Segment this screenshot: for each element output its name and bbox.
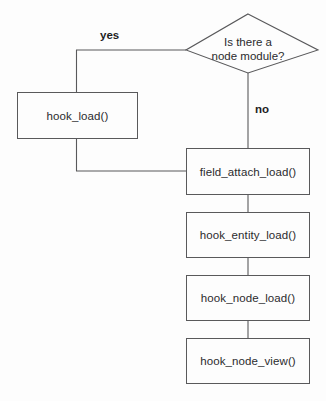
node-hook-node-load-label: hook_node_load() (201, 292, 295, 304)
node-hook-load: hook_load() (17, 92, 138, 139)
edge-label-no: no (255, 103, 269, 115)
node-hook-node-view: hook_node_view() (186, 338, 310, 384)
node-field-attach-load: field_attach_load() (186, 148, 310, 195)
node-hook-node-load: hook_node_load() (186, 275, 310, 321)
node-hook-load-label: hook_load() (47, 110, 109, 122)
node-hook-entity-load: hook_entity_load() (186, 212, 310, 258)
node-hook-node-view-label: hook_node_view() (200, 355, 296, 367)
decision-label: Is there a node module? (186, 36, 310, 63)
flowchart-diagram: Is there a node module? yes no hook_load… (0, 0, 326, 401)
edge-hook-load-to-field-attach (77, 139, 187, 171)
node-hook-entity-load-label: hook_entity_load() (200, 229, 296, 241)
edge-label-yes: yes (100, 29, 119, 41)
decision-label-line1: Is there a (186, 36, 310, 50)
node-field-attach-load-label: field_attach_load() (200, 166, 297, 178)
edge-yes (77, 50, 187, 92)
decision-label-line2: node module? (186, 50, 310, 64)
